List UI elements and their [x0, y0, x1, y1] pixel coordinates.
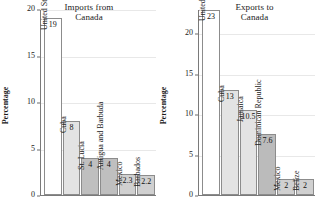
bar-value-label: 4 — [88, 160, 92, 169]
chart-panel-exports: Exports to Canada Percentage 05101520 23… — [158, 0, 317, 210]
y-axis-label-text: Percentage — [2, 86, 11, 124]
y-tick-10: 10 — [14, 103, 40, 104]
bar-group-exports: 23United States13Cuba10.5Jamaica7.6Domin… — [199, 10, 315, 195]
bar-value-label: 4 — [107, 160, 111, 169]
bar-value-label: 2 — [284, 181, 288, 190]
y-tick-label: 0 — [189, 190, 193, 200]
bar-value-label: 23 — [207, 12, 215, 21]
bar-slot: 23United States — [202, 10, 220, 195]
bar-value-label: 13 — [226, 92, 234, 101]
bar[interactable]: 2.3 — [119, 174, 137, 195]
bar[interactable]: 7.6 — [258, 134, 276, 195]
bar-value-label: 2.3 — [123, 176, 133, 185]
bar-slot: 2.3Mexico — [119, 10, 137, 195]
bar-slot: 13Cuba — [221, 10, 239, 195]
y-tick-5: 5 — [14, 149, 40, 150]
bar-value-label: 2 — [303, 181, 307, 190]
y-tick-label: 15 — [27, 50, 35, 60]
bar-slot: 19United States — [44, 10, 62, 195]
bar-value-label: 7.6 — [262, 136, 272, 145]
bar[interactable]: 8 — [63, 121, 81, 195]
bar[interactable]: 2.2 — [137, 175, 155, 195]
bar-slot: 4St. Lucia — [81, 10, 99, 195]
y-axis-label-imports: Percentage — [0, 0, 13, 210]
y-tick-label: 20 — [185, 28, 193, 38]
y-tick-label: 10 — [27, 97, 35, 107]
y-tick-20: 20 — [14, 10, 40, 11]
bar-value-label: 19 — [49, 20, 57, 29]
y-tick-10: 10 — [172, 115, 198, 116]
plot-area-exports: 23United States13Cuba10.5Jamaica7.6Domin… — [198, 10, 315, 196]
y-axis-label-text: Percentage — [160, 86, 169, 124]
bar-slot: 8Cuba — [63, 10, 81, 195]
bar[interactable]: 2 — [277, 179, 295, 195]
bar[interactable]: 19 — [44, 18, 62, 195]
bar-value-label: 10.5 — [242, 112, 256, 121]
y-axis-label-exports: Percentage — [157, 0, 171, 210]
y-tick-label: 20 — [27, 4, 35, 14]
bar-slot: 7.6Dominican Republic — [258, 10, 276, 195]
y-tick-label: 15 — [185, 68, 193, 78]
y-tick-label: 0 — [31, 190, 35, 200]
bar-value-label: 2.2 — [141, 177, 151, 186]
bar-slot: 2Belize — [296, 10, 314, 195]
bar-slot: 10.5Jamaica — [240, 10, 258, 195]
double-bar-chart-figure: Imports from Canada Percentage 05101520 … — [0, 0, 317, 210]
bar[interactable]: 4 — [100, 158, 118, 195]
y-axis-ticks-exports: 05101520 — [172, 10, 198, 196]
chart-panel-imports: Imports from Canada Percentage 05101520 … — [0, 0, 158, 210]
bar[interactable]: 2 — [296, 179, 314, 195]
plot-area-imports: 19United States8Cuba4St. Lucia4Antigua a… — [40, 10, 156, 196]
bar-slot: 2Mexico — [277, 10, 295, 195]
y-tick-label: 5 — [189, 149, 193, 159]
y-axis-ticks-imports: 05101520 — [14, 10, 40, 196]
bar[interactable]: 4 — [81, 158, 99, 195]
bar-slot: 4Antigua and Barbuda — [100, 10, 118, 195]
y-tick-20: 20 — [172, 34, 198, 35]
bar[interactable]: 10.5 — [240, 110, 258, 195]
y-tick-label: 10 — [185, 109, 193, 119]
y-tick-15: 15 — [14, 56, 40, 57]
y-tick-15: 15 — [172, 74, 198, 75]
y-tick-0: 0 — [172, 196, 198, 197]
bar-slot: 2.2Barbados — [137, 10, 155, 195]
y-tick-5: 5 — [172, 155, 198, 156]
y-tick-0: 0 — [14, 196, 40, 197]
bar[interactable]: 23 — [202, 10, 220, 195]
bar-value-label: 8 — [70, 123, 74, 132]
bar-group-imports: 19United States8Cuba4St. Lucia4Antigua a… — [41, 10, 156, 195]
bar[interactable]: 13 — [221, 90, 239, 195]
y-tick-label: 5 — [31, 143, 35, 153]
